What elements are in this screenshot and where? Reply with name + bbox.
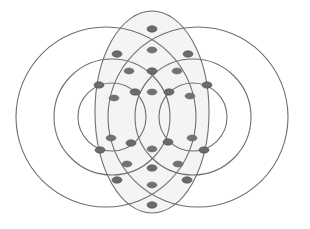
intersection-node xyxy=(163,139,173,145)
region-marker xyxy=(124,68,134,74)
intersection-node xyxy=(130,89,140,95)
region-marker xyxy=(147,182,157,188)
region-marker xyxy=(172,68,182,74)
region-marker xyxy=(173,161,183,167)
intersection-node xyxy=(202,82,212,88)
intersection-node xyxy=(147,202,157,208)
venn-diagram xyxy=(0,0,310,229)
intersection-node xyxy=(95,147,105,153)
region-marker xyxy=(106,135,116,141)
intersection-node xyxy=(182,177,192,183)
intersection-node xyxy=(199,147,209,153)
intersection-node xyxy=(112,177,122,183)
intersection-node xyxy=(147,68,157,74)
region-marker xyxy=(147,89,157,95)
intersection-node xyxy=(183,51,193,57)
region-marker xyxy=(147,47,157,53)
intersection-node xyxy=(126,140,136,146)
intersection-node xyxy=(147,165,157,171)
region-marker xyxy=(109,95,119,101)
region-marker xyxy=(187,135,197,141)
region-marker xyxy=(122,161,132,167)
intersection-node xyxy=(112,51,122,57)
intersection-node xyxy=(94,82,104,88)
region-marker xyxy=(185,93,195,99)
intersection-node xyxy=(164,89,174,95)
intersection-node xyxy=(147,26,157,32)
region-marker xyxy=(147,146,157,152)
